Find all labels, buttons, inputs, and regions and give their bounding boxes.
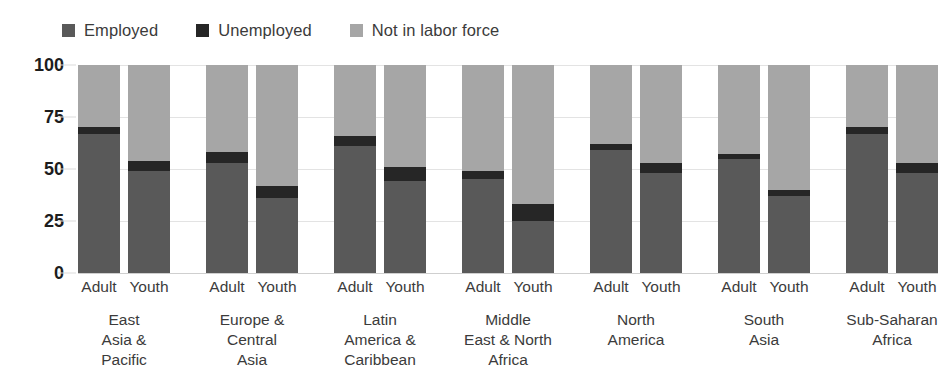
bar-segment-nilf[interactable] <box>512 65 554 204</box>
x-region-label: East Asia & Pacific <box>101 310 147 369</box>
bar-segment-employed[interactable] <box>846 134 888 273</box>
legend-label: Employed <box>84 21 158 40</box>
bar-group <box>334 65 426 273</box>
bar-segment-nilf[interactable] <box>206 65 248 152</box>
stacked-bar[interactable] <box>896 65 938 273</box>
legend-label: Not in labor force <box>372 21 499 40</box>
x-tick-label: Adult <box>846 278 888 296</box>
bar-segment-nilf[interactable] <box>334 65 376 136</box>
x-group-label: AdultYouthEurope & Central Asia <box>206 278 298 369</box>
x-tick-label: Adult <box>78 278 120 296</box>
stacked-bar[interactable] <box>384 65 426 273</box>
x-region-label: Europe & Central Asia <box>220 310 285 369</box>
bar-segment-unemployed[interactable] <box>256 186 298 198</box>
bar-group <box>78 65 170 273</box>
bar-segment-employed[interactable] <box>384 181 426 273</box>
bar-segment-nilf[interactable] <box>462 65 504 171</box>
bar-segment-nilf[interactable] <box>846 65 888 127</box>
stacked-bar[interactable] <box>512 65 554 273</box>
gridline-0 <box>78 273 938 274</box>
x-subcategory-row: AdultYouth <box>206 278 298 296</box>
stacked-bar[interactable] <box>256 65 298 273</box>
bar-segment-employed[interactable] <box>718 159 760 273</box>
bar-segment-nilf[interactable] <box>384 65 426 167</box>
x-region-label: Middle East & North Africa <box>464 310 552 369</box>
bar-segment-employed[interactable] <box>640 173 682 273</box>
x-tick-label: Adult <box>206 278 248 296</box>
x-subcategory-row: AdultYouth <box>718 278 810 296</box>
y-tick-label-75: 75 <box>8 107 64 128</box>
bar-segment-employed[interactable] <box>512 221 554 273</box>
x-subcategory-row: AdultYouth <box>846 278 938 296</box>
chart-root: EmployedUnemployedNot in labor force 025… <box>0 0 952 384</box>
stacked-bar[interactable] <box>718 65 760 273</box>
bar-segment-nilf[interactable] <box>590 65 632 144</box>
y-tick-mark-100 <box>58 65 76 66</box>
bar-segment-unemployed[interactable] <box>640 163 682 173</box>
bar-segment-nilf[interactable] <box>768 65 810 190</box>
x-tick-label: Adult <box>718 278 760 296</box>
square-swatch-icon <box>196 24 209 37</box>
x-tick-label: Adult <box>462 278 504 296</box>
stacked-bar[interactable] <box>846 65 888 273</box>
y-axis: 0255075100 <box>0 65 64 273</box>
legend-item-employed[interactable]: Employed <box>62 21 158 40</box>
stacked-bar[interactable] <box>640 65 682 273</box>
x-subcategory-row: AdultYouth <box>78 278 170 296</box>
x-group-label: AdultYouthSouth Asia <box>718 278 810 369</box>
bar-segment-nilf[interactable] <box>256 65 298 186</box>
x-subcategory-row: AdultYouth <box>462 278 554 296</box>
bar-segment-nilf[interactable] <box>718 65 760 154</box>
bar-group <box>846 65 938 273</box>
x-group-label: AdultYouthNorth America <box>590 278 682 369</box>
bar-group <box>462 65 554 273</box>
bar-segment-unemployed[interactable] <box>206 152 248 162</box>
x-tick-label: Youth <box>128 278 170 296</box>
bar-segment-nilf[interactable] <box>128 65 170 161</box>
bar-segment-unemployed[interactable] <box>128 161 170 171</box>
bar-segment-unemployed[interactable] <box>896 163 938 173</box>
bar-group <box>718 65 810 273</box>
bar-segment-employed[interactable] <box>256 198 298 273</box>
x-region-label: South Asia <box>744 310 785 350</box>
x-tick-label: Adult <box>590 278 632 296</box>
bar-segment-employed[interactable] <box>590 150 632 273</box>
bar-segment-employed[interactable] <box>768 196 810 273</box>
stacked-bar[interactable] <box>768 65 810 273</box>
bar-segment-employed[interactable] <box>462 179 504 273</box>
bar-segment-unemployed[interactable] <box>462 171 504 179</box>
y-tick-mark-50 <box>58 169 76 170</box>
square-swatch-icon <box>62 24 75 37</box>
x-tick-label: Youth <box>896 278 938 296</box>
stacked-bar[interactable] <box>78 65 120 273</box>
stacked-bar[interactable] <box>334 65 376 273</box>
bar-segment-employed[interactable] <box>128 171 170 273</box>
square-swatch-icon <box>350 24 363 37</box>
x-group-label: AdultYouthEast Asia & Pacific <box>78 278 170 369</box>
stacked-bar[interactable] <box>462 65 504 273</box>
x-axis-labels: AdultYouthEast Asia & PacificAdultYouthE… <box>78 278 938 369</box>
bar-segment-nilf[interactable] <box>78 65 120 127</box>
legend-label: Unemployed <box>218 21 312 40</box>
bar-segment-unemployed[interactable] <box>334 136 376 146</box>
legend-item-nilf[interactable]: Not in labor force <box>350 21 499 40</box>
bar-segment-employed[interactable] <box>896 173 938 273</box>
bar-segment-nilf[interactable] <box>640 65 682 163</box>
x-tick-label: Youth <box>512 278 554 296</box>
x-subcategory-row: AdultYouth <box>590 278 682 296</box>
bar-segment-nilf[interactable] <box>896 65 938 163</box>
bar-segment-employed[interactable] <box>206 163 248 273</box>
stacked-bar[interactable] <box>206 65 248 273</box>
y-tick-label-0: 0 <box>8 263 64 284</box>
x-group-label: AdultYouthSub-Saharan Africa <box>846 278 938 369</box>
bar-segment-unemployed[interactable] <box>384 167 426 182</box>
y-tick-label-25: 25 <box>8 211 64 232</box>
bar-group <box>590 65 682 273</box>
legend-item-unemployed[interactable]: Unemployed <box>196 21 312 40</box>
stacked-bar[interactable] <box>590 65 632 273</box>
stacked-bar[interactable] <box>128 65 170 273</box>
bar-segment-unemployed[interactable] <box>512 204 554 221</box>
bar-segment-employed[interactable] <box>334 146 376 273</box>
x-tick-label: Adult <box>334 278 376 296</box>
bar-segment-employed[interactable] <box>78 134 120 273</box>
